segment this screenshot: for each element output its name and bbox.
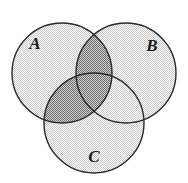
set-label-a: A [28,34,40,53]
set-label-c: C [88,147,100,166]
venn-diagram-canvas: A B C [0,0,188,183]
set-label-b: B [145,36,157,55]
venn-diagram-figure: A B C [0,0,188,183]
